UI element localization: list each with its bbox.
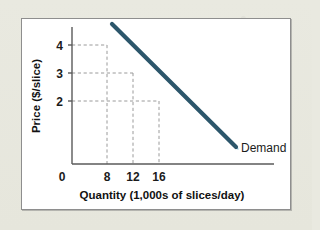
x-tick-label-0: 0 — [59, 170, 66, 184]
figure-panel: 4 3 2 0 8 12 16 Price ($/slice) Quantity… — [21, 18, 291, 210]
y-axis-title: Price ($/slice) — [30, 59, 42, 133]
demand-series-label: Demand — [241, 141, 286, 155]
x-axis-title: Quantity (1,000s of slices/day) — [80, 189, 245, 201]
y-tick-label-2: 2 — [56, 95, 63, 109]
y-tick-label-3: 3 — [56, 67, 63, 81]
x-tick-label-16: 16 — [152, 170, 166, 184]
x-tick-label-8: 8 — [104, 170, 111, 184]
guide-lines — [72, 45, 159, 164]
y-tick-label-4: 4 — [56, 39, 63, 53]
demand-line — [112, 24, 236, 147]
demand-curve-chart: 4 3 2 0 8 12 16 Price ($/slice) Quantity… — [22, 19, 290, 209]
demand-series — [112, 24, 238, 149]
x-tick-label-12: 12 — [126, 170, 140, 184]
